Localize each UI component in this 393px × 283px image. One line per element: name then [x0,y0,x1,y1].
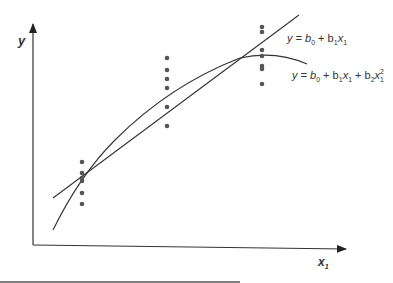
y-axis-label: y [17,33,26,48]
linear-equation: y = b0 + b1x1 [286,32,347,46]
quadratic-fit-curve [53,55,307,230]
quadratic-equation: y = b0 + b1x1 + b2x21 [291,68,384,83]
x-axis-label: x1 [317,255,329,270]
linear-fit-line [53,15,299,198]
points-high [260,25,265,87]
x-axis [33,245,346,249]
regression-diagram: y x1 y = b0 + b1x1 y = b0 + b1x1 + b2x21 [0,0,393,283]
points-mid [165,56,170,129]
